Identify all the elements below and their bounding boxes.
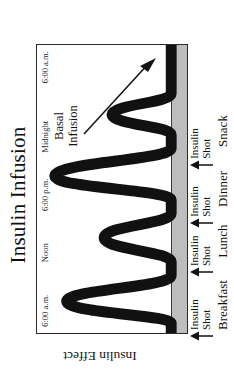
insulin-shot-line-2: Shot	[201, 186, 213, 217]
x-tick-label: Noon	[40, 243, 50, 262]
y-axis-label: Insulin Effect	[40, 348, 160, 364]
figure-canvas: Insulin Infusion 6:00 a.m. Noon 6:00 p.m…	[0, 0, 234, 390]
basal-callout-line-1: Basal	[52, 90, 66, 162]
insulin-shot-line-2: Shot	[201, 299, 213, 330]
annotation-band: Insulin Shot Insulin Shot	[189, 44, 233, 334]
plot-area	[36, 44, 188, 334]
up-arrow-icon	[190, 331, 214, 341]
x-tick-label: 6:00 a.m.	[40, 51, 50, 83]
insulin-shot-line-1: Insulin	[189, 299, 201, 330]
insulin-shot-annotation: Insulin Shot	[189, 275, 214, 341]
insulin-infusion-figure: Insulin Infusion 6:00 a.m. Noon 6:00 p.m…	[0, 0, 234, 390]
insulin-shot-line-2: Shot	[201, 128, 213, 159]
rotated-figure-wrapper: Insulin Infusion 6:00 a.m. Noon 6:00 p.m…	[0, 0, 234, 390]
x-tick-label: 6:00 p.m.	[40, 179, 50, 211]
up-arrow-icon	[190, 160, 214, 170]
x-axis-tick-labels: 6:00 a.m. Noon 6:00 p.m. Midnight 6:00 a…	[40, 44, 56, 334]
insulin-shot-line-1: Insulin	[189, 236, 201, 267]
up-arrow-icon	[190, 267, 214, 277]
x-tick-label: 6:00 a.m.	[40, 295, 50, 327]
basal-callout-line-2: Infusion	[66, 90, 80, 162]
meal-label-breakfast: Breakfast	[215, 280, 231, 330]
up-arrow-icon	[190, 218, 214, 228]
insulin-shot-line-2: Shot	[201, 236, 213, 267]
insulin-shot-line-1: Insulin	[189, 128, 201, 159]
meal-label-dinner: Dinner	[215, 171, 231, 207]
basal-infusion-callout: Basal Infusion	[52, 90, 80, 162]
insulin-effect-curve	[37, 45, 187, 333]
x-tick-label: Midnight	[40, 121, 50, 153]
meal-label-lunch: Lunch	[215, 225, 231, 258]
insulin-shot-annotation: Insulin Shot	[189, 162, 214, 228]
figure-title: Insulin Infusion	[6, 0, 31, 390]
meal-label-snack: Snack	[215, 115, 231, 147]
insulin-shot-line-1: Insulin	[189, 186, 201, 217]
insulin-shot-annotation: Insulin Shot	[189, 104, 214, 170]
